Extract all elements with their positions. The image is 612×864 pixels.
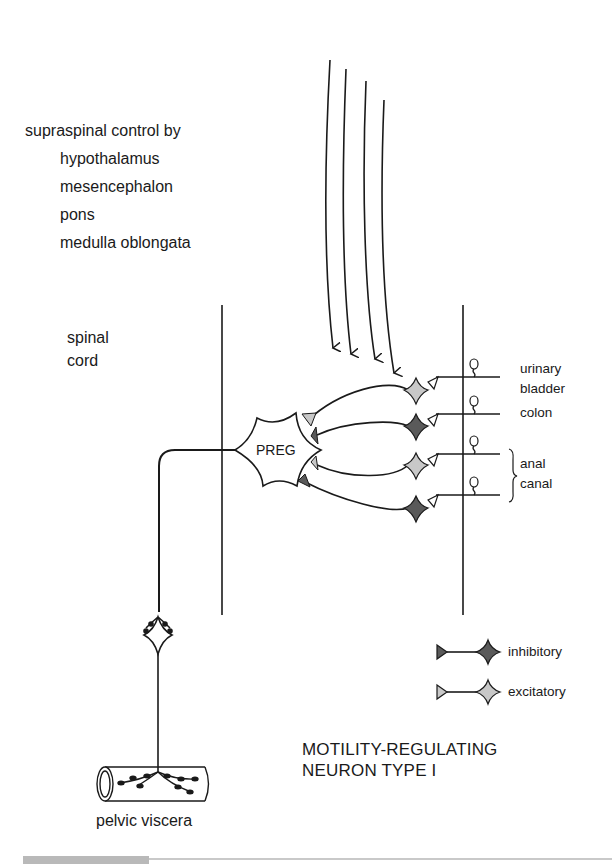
supraspinal-pathways (326, 60, 394, 373)
supraspinal-center-medulla: medulla oblongata (60, 234, 191, 252)
target-anal-canal-line1: anal (520, 456, 546, 472)
descending-pathway-4 (382, 100, 394, 373)
legend-excitatory-label: excitatory (508, 684, 566, 700)
inhibitory-interneuron-2 (404, 414, 428, 440)
footer-divider (149, 858, 612, 860)
legend-inhibitory-label: inhibitory (508, 644, 562, 660)
spinal-cord-label-line2: cord (67, 352, 98, 370)
afferent-receptor-4 (470, 477, 478, 495)
interneuron-axon-3 (317, 465, 408, 476)
excitatory-interneuron-3 (404, 453, 428, 479)
legend-inhibitory-symbol (437, 640, 500, 664)
spinal-cord-label-line1: spinal (67, 329, 109, 347)
footer-bar-block (23, 856, 149, 864)
excitatory-interneuron-1 (404, 378, 428, 404)
descending-pathway-2 (343, 69, 351, 354)
postganglionic-terminals (118, 772, 198, 794)
interneuron-axon-1 (307, 385, 408, 421)
descending-pathway-3 (364, 81, 375, 359)
excitatory-synapse-on-preg-1 (302, 413, 316, 426)
afferent-receptor-3 (470, 436, 478, 454)
inhibitory-interneuron-4 (404, 496, 428, 522)
afferent-terminal-2 (428, 414, 438, 426)
afferent-receptor-2 (470, 396, 478, 414)
pelvic-viscera-label: pelvic viscera (96, 812, 192, 830)
target-anal-canal-line2: canal (520, 476, 552, 492)
pelvic-viscera-tube (97, 767, 209, 801)
legend-excitatory-symbol (437, 680, 500, 704)
afferent-terminal-3 (428, 454, 438, 466)
interneuron-axon-2 (317, 422, 408, 435)
preganglionic-axon (159, 450, 236, 612)
interneuron-axon-4 (305, 482, 408, 509)
afferent-receptor-1 (470, 359, 478, 377)
supraspinal-center-pons: pons (60, 206, 95, 224)
autonomic-ganglion (144, 617, 172, 654)
descending-pathway-1 (326, 60, 333, 348)
afferent-terminal-1 (428, 377, 438, 389)
target-urinary-bladder-line1: urinary (520, 361, 561, 377)
preg-label: PREG (256, 442, 296, 458)
supraspinal-center-hypothalamus: hypothalamus (60, 150, 160, 168)
afferent-terminal-4 (428, 495, 438, 507)
target-urinary-bladder-line2: bladder (520, 381, 565, 397)
supraspinal-heading: supraspinal control by (25, 122, 181, 140)
figure-title-line1: MOTILITY-REGULATING (302, 740, 498, 759)
figure-title-line2: NEURON TYPE I (302, 761, 437, 780)
supraspinal-center-mesencephalon: mesencephalon (60, 178, 173, 196)
inhibitory-synapse-on-preg-2 (311, 427, 318, 444)
excitatory-synapse-on-preg-3 (311, 456, 318, 470)
anal-canal-brace (509, 449, 517, 502)
target-colon: colon (520, 405, 552, 421)
